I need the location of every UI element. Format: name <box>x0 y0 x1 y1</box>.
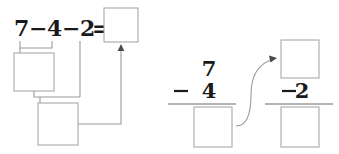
final-answer-box[interactable] <box>104 8 138 42</box>
column-two-subtrahend: 2 <box>295 78 310 103</box>
equation-second-minus: − <box>62 15 80 41</box>
equation-first-operand: 7 <box>14 15 29 41</box>
equation-second-operand: 4 <box>47 15 62 41</box>
first-column-result-box[interactable] <box>194 107 232 147</box>
curved-transfer-arrow <box>236 60 271 126</box>
bracket-under-second-subtraction <box>34 91 80 97</box>
bracket-under-first-subtraction <box>20 41 52 48</box>
worksheet-canvas: 7 − 4 − 2 = 7 4 <box>0 0 339 154</box>
second-vertical-subtraction: 2 <box>265 40 333 147</box>
step-one-answer-box[interactable] <box>14 53 54 91</box>
second-column-minuend-box[interactable] <box>281 40 319 78</box>
step-two-answer-box[interactable] <box>38 103 78 145</box>
arrow-up-icon <box>118 44 125 51</box>
column-one-subtrahend: 4 <box>202 78 217 103</box>
arrow-right-icon <box>269 56 277 63</box>
horizontal-equation-panel: 7 − 4 − 2 = <box>14 8 138 145</box>
equation-first-minus: − <box>29 15 47 41</box>
connector-to-final-answer <box>78 50 121 124</box>
second-column-result-box[interactable] <box>281 107 319 147</box>
vertical-subtraction-panel: 7 4 2 <box>168 40 333 147</box>
first-vertical-subtraction: 7 4 <box>168 56 236 147</box>
